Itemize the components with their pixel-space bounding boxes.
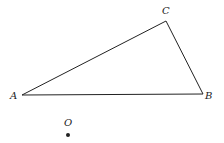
vertex-label-b: B bbox=[204, 90, 212, 101]
edge-bc bbox=[166, 21, 203, 94]
edge-ca bbox=[22, 21, 166, 95]
triangle-diagram: A B C O bbox=[0, 0, 224, 143]
point-o-dot bbox=[66, 133, 70, 137]
vertex-label-c: C bbox=[162, 5, 170, 16]
vertex-label-a: A bbox=[9, 90, 17, 101]
point-label-o: O bbox=[64, 117, 72, 128]
edge-ab bbox=[22, 94, 203, 95]
